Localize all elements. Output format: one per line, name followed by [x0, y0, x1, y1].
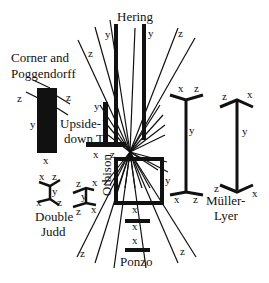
illusions-diagram: Hering y y z z Corner and Poggendorff z … — [0, 0, 269, 283]
svg-text:Judd: Judd — [41, 224, 66, 239]
svg-text:z: z — [180, 245, 185, 257]
svg-text:Orbison: Orbison — [99, 154, 114, 196]
corner-poggendorff-illusion: Corner and Poggendorff z z y x — [11, 50, 76, 166]
svg-text:y: y — [189, 124, 195, 136]
svg-text:z: z — [222, 90, 227, 102]
svg-text:x: x — [174, 193, 180, 205]
svg-text:z: z — [76, 177, 81, 189]
svg-text:y: y — [165, 174, 171, 186]
svg-text:x: x — [178, 82, 184, 94]
svg-text:z: z — [66, 91, 71, 103]
svg-text:z: z — [57, 196, 62, 208]
svg-text:Lyer: Lyer — [214, 208, 238, 223]
double-judd-illusion — [38, 180, 96, 207]
svg-text:y: y — [94, 100, 100, 112]
hering-title: Hering — [117, 9, 154, 24]
svg-text:Ponzo: Ponzo — [120, 254, 153, 269]
svg-text:z: z — [193, 193, 198, 205]
svg-text:x: x — [252, 187, 258, 199]
svg-text:Corner and: Corner and — [11, 50, 70, 65]
svg-text:x: x — [247, 88, 253, 100]
svg-text:z: z — [52, 170, 57, 182]
svg-text:y: y — [81, 190, 87, 202]
svg-text:z: z — [80, 247, 85, 259]
svg-text:x: x — [132, 234, 138, 246]
svg-text:x: x — [132, 220, 138, 232]
svg-text:Müller-: Müller- — [206, 193, 245, 208]
svg-text:x: x — [43, 154, 49, 166]
svg-text:Upside-: Upside- — [60, 116, 101, 131]
svg-text:z: z — [194, 82, 199, 94]
svg-text:x: x — [36, 196, 42, 208]
svg-text:y: y — [242, 125, 248, 137]
svg-text:Double: Double — [35, 209, 74, 224]
svg-text:x: x — [39, 170, 45, 182]
svg-text:x: x — [132, 203, 138, 215]
svg-text:x: x — [92, 176, 98, 188]
svg-text:y: y — [148, 27, 154, 39]
svg-text:y: y — [105, 28, 111, 40]
svg-text:z: z — [178, 27, 183, 39]
svg-text:z: z — [76, 205, 81, 217]
svg-text:z: z — [17, 92, 22, 104]
svg-text:Poggendorff: Poggendorff — [11, 66, 76, 81]
svg-text:x: x — [91, 203, 97, 215]
muller-lyer-illusion — [170, 95, 253, 195]
svg-text:y: y — [30, 118, 36, 130]
svg-text:z: z — [88, 47, 93, 59]
